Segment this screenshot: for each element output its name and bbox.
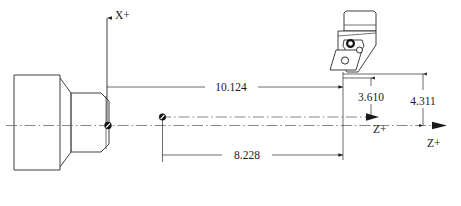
dim-8-228-value: 8.228 <box>234 149 260 161</box>
x-axis-group: X+ <box>107 9 130 127</box>
tool-origin-node <box>159 114 166 121</box>
workpiece-group <box>14 75 109 170</box>
workpiece-nose-chamfer-upper <box>101 93 109 101</box>
tool-clamp-screw-icon <box>347 40 354 47</box>
dim-10-124-value: 10.124 <box>215 81 247 93</box>
workpiece-large-diameter <box>14 75 60 170</box>
z-axis-tool-arrowhead <box>366 113 379 120</box>
z-axis-part-label: Z+ <box>427 137 441 149</box>
z-axis-tool-group: Z+ <box>159 113 386 135</box>
dim-4-311-value: 4.311 <box>410 95 436 107</box>
x-axis-label: X+ <box>115 9 130 21</box>
tool-shank-body <box>344 11 376 31</box>
drawing-canvas: X+ Z+ Z+ <box>0 0 461 206</box>
dimension-10-124: 10.124 <box>107 81 343 93</box>
workpiece-chamfer-upper <box>60 78 71 93</box>
workpiece-nose-chamfer-lower <box>101 144 109 152</box>
dim-3-610-value: 3.610 <box>358 91 384 103</box>
workpiece-chamfer-lower <box>60 152 71 167</box>
z-axis-tool-label: Z+ <box>373 123 387 135</box>
cnc-tool-offset-diagram: X+ Z+ Z+ <box>0 0 461 206</box>
z-axis-part-arrowhead <box>432 122 447 129</box>
dimension-4-311: 4.311 <box>343 74 436 126</box>
z-axis-part-group: Z+ <box>427 122 447 149</box>
tool-arm-hole-icon <box>357 47 363 53</box>
lathe-tool-holder-group <box>330 11 376 72</box>
part-datum-node <box>105 122 112 129</box>
dimension-8-228: 8.228 <box>163 120 344 162</box>
tool-insert-hole-icon <box>341 57 348 64</box>
dimension-3-610: 3.610 <box>343 78 384 117</box>
